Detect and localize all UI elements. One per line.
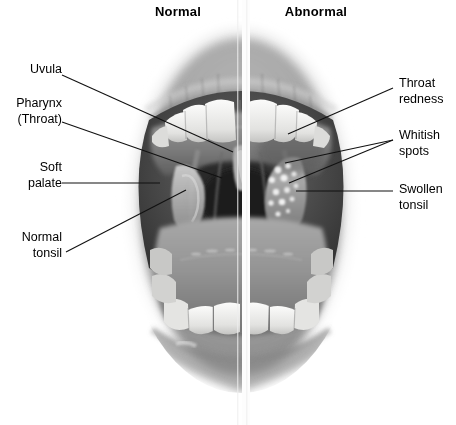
whitish-spots-cluster	[268, 163, 298, 216]
label-whitish-spots-line1: Whitish	[399, 128, 456, 144]
label-uvula: Uvula	[0, 62, 62, 78]
pharyngeal-pillars	[191, 150, 291, 232]
leader-throat-redness	[288, 88, 393, 134]
normal-tonsil	[171, 165, 205, 233]
label-throat-redness-line1: Throat	[399, 76, 456, 92]
leader-whitish-spots-1	[285, 140, 393, 163]
label-swollen-tonsil: Swollen tonsil	[399, 182, 456, 213]
label-normal-tonsil-line1: Normal	[0, 230, 62, 246]
label-swollen-tonsil-line1: Swollen	[399, 182, 456, 198]
lower-teeth	[150, 248, 333, 335]
label-soft-palate-line2: palate	[0, 176, 62, 192]
swollen-tonsil	[258, 126, 326, 234]
header-normal: Normal	[138, 4, 218, 19]
tongue	[154, 217, 328, 336]
leader-pharynx	[62, 122, 222, 178]
tongue-papillae	[191, 249, 293, 256]
oral-cavity	[139, 91, 344, 392]
label-pharynx-line2: (Throat)	[0, 112, 62, 128]
vertical-split-divider	[242, 0, 250, 425]
soft-palate	[151, 112, 332, 176]
leader-normal-tonsil	[66, 190, 186, 252]
lip-ridges	[146, 81, 336, 361]
lip-texture	[170, 74, 312, 118]
label-soft-palate-line1: Soft	[0, 160, 62, 176]
leader-lines	[62, 75, 393, 252]
throat-redness-region	[258, 126, 326, 174]
label-soft-palate: Soft palate	[0, 160, 62, 191]
label-whitish-spots: Whitish spots	[399, 128, 456, 159]
throat-hollow	[185, 154, 297, 238]
label-uvula-line1: Uvula	[0, 62, 62, 78]
label-normal-tonsil-line2: tonsil	[0, 246, 62, 262]
upper-teeth	[152, 99, 330, 148]
leader-whitish-spots-2	[289, 140, 393, 183]
label-pharynx-line1: Pharynx	[0, 96, 62, 112]
header-abnormal: Abnormal	[272, 4, 360, 19]
throat-comparison-figure: Normal Abnormal Uvula Pharynx (Throat) S…	[0, 0, 456, 425]
label-normal-tonsil: Normal tonsil	[0, 230, 62, 261]
edge-vignette	[0, 0, 456, 425]
label-whitish-spots-line2: spots	[399, 144, 456, 160]
label-swollen-tonsil-line2: tonsil	[399, 198, 456, 214]
label-pharynx: Pharynx (Throat)	[0, 96, 62, 127]
label-throat-redness: Throat redness	[399, 76, 456, 107]
label-throat-redness-line2: redness	[399, 92, 456, 108]
face-mass	[129, 30, 353, 390]
uvula	[233, 145, 249, 191]
mouth-illustration	[0, 0, 456, 425]
leader-uvula	[62, 75, 233, 152]
lower-lip-inner	[150, 330, 332, 392]
